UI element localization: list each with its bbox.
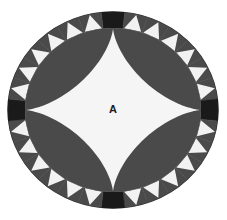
ring-cardinal-block: [200, 99, 218, 121]
ring-cardinal-block: [101, 12, 125, 29]
circular-mosaic-diagram: A: [0, 0, 227, 220]
ring-cardinal-block: [101, 191, 125, 208]
region-label-a: A: [109, 103, 117, 115]
ring-cardinal-block: [8, 99, 26, 121]
figure-container: A: [0, 0, 227, 220]
